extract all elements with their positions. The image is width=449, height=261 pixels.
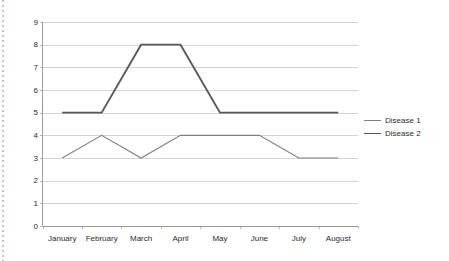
x-axis-tick-label: May — [200, 234, 239, 243]
x-axis-tick-label: March — [121, 234, 160, 243]
x-axis-tick-label: February — [82, 234, 121, 243]
series-group — [62, 45, 338, 158]
x-axis-tick-label: August — [319, 234, 358, 243]
series-line-2 — [62, 45, 338, 113]
legend-label: Disease 2 — [385, 129, 421, 138]
y-axis-tick-label: 0 — [20, 222, 38, 231]
chart-legend: Disease 1Disease 2 — [364, 114, 448, 140]
x-axis-tick-label: July — [279, 234, 318, 243]
y-axis-tick-label: 2 — [20, 176, 38, 185]
y-axis-tick-label: 8 — [20, 40, 38, 49]
y-axis-tick-label: 6 — [20, 86, 38, 95]
legend-label: Disease 1 — [385, 116, 421, 125]
legend-item-1[interactable]: Disease 1 — [364, 114, 448, 127]
series-line-1 — [62, 135, 338, 158]
y-axis-tick-label: 5 — [20, 108, 38, 117]
line-chart: 0123456789 JanuaryFebruaryMarchAprilMayJ… — [0, 0, 449, 261]
x-axis-tick-label: April — [161, 234, 200, 243]
y-axis-tick-label: 7 — [20, 63, 38, 72]
legend-line-swatch-icon — [364, 116, 381, 125]
y-axis-tick-label: 1 — [20, 199, 38, 208]
y-axis-tick-label: 9 — [20, 18, 38, 27]
y-axis-tick-label: 3 — [20, 154, 38, 163]
legend-item-2[interactable]: Disease 2 — [364, 127, 448, 140]
x-axis-tick-marks — [40, 23, 359, 230]
x-axis-tick-label: January — [43, 234, 82, 243]
legend-line-swatch-icon — [364, 129, 381, 138]
y-axis-tick-label: 4 — [20, 131, 38, 140]
x-axis-tick-label: June — [240, 234, 279, 243]
